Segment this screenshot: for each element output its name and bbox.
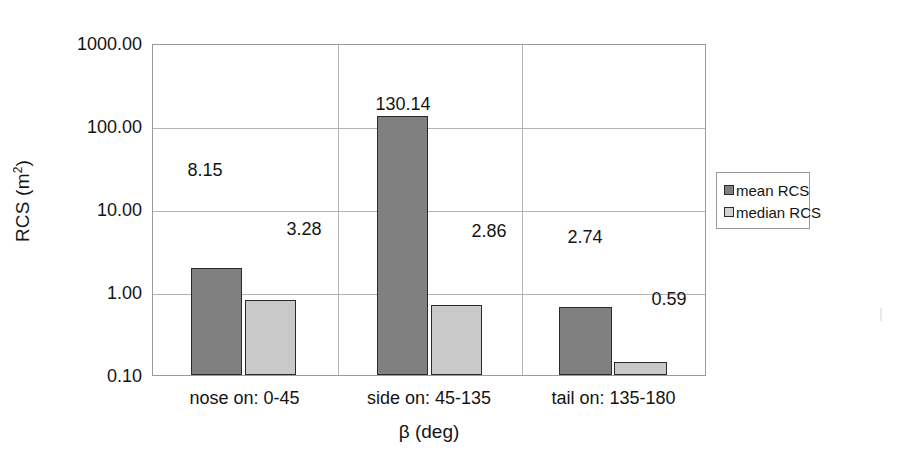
- y-tick-1000: 1000.00: [22, 34, 142, 55]
- y-tick-1: 1.00: [22, 283, 142, 304]
- bar-mean-nose-on[interactable]: [191, 268, 242, 375]
- data-label-mean-tail-on: 2.74: [545, 227, 625, 248]
- legend-item-median-rcs[interactable]: median RCS: [724, 201, 809, 223]
- x-tick-nose-on: nose on: 0-45: [152, 388, 337, 409]
- gridline-100: [153, 128, 705, 129]
- bar-mean-side-on[interactable]: [377, 116, 428, 375]
- data-label-median-side-on: 2.86: [449, 221, 529, 242]
- x-tick-tail-on: tail on: 135-180: [521, 388, 706, 409]
- legend: mean RCS median RCS: [716, 172, 810, 229]
- legend-swatch-median-rcs: [724, 207, 734, 217]
- data-label-median-tail-on: 0.59: [629, 289, 709, 310]
- legend-item-mean-rcs[interactable]: mean RCS: [724, 179, 809, 201]
- y-tick-10: 10.00: [22, 200, 142, 221]
- data-label-median-nose-on: 3.28: [264, 219, 344, 240]
- y-tick-0-10: 0.10: [22, 366, 142, 387]
- y-axis-tick-labels: 1000.00 100.00 10.00 1.00 0.10: [18, 0, 142, 459]
- bar-median-side-on[interactable]: [431, 305, 482, 375]
- data-label-mean-side-on: 130.14: [361, 94, 445, 115]
- bar-median-tail-on[interactable]: [614, 362, 667, 375]
- category-separator-2: [522, 45, 523, 375]
- bar-mean-tail-on[interactable]: [559, 307, 612, 375]
- data-label-mean-nose-on: 8.15: [165, 160, 245, 181]
- rcs-bar-chart: RCS (m2) 1000.00 100.00 10.00 1.00 0.10 …: [0, 0, 912, 459]
- legend-swatch-mean-rcs: [724, 185, 734, 195]
- gridline-10: [153, 211, 705, 212]
- x-axis-title: β (deg): [152, 421, 706, 443]
- x-tick-side-on: side on: 45-135: [337, 388, 521, 409]
- scan-artifact-mark: [880, 308, 882, 321]
- legend-label-mean-rcs: mean RCS: [736, 182, 809, 199]
- bar-median-nose-on[interactable]: [245, 300, 296, 375]
- category-separator-1: [338, 45, 339, 375]
- legend-label-median-rcs: median RCS: [736, 204, 821, 221]
- y-tick-100: 100.00: [22, 117, 142, 138]
